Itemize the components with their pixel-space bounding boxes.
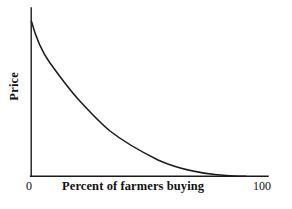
- y-axis-title: Price: [8, 66, 21, 106]
- chart-plot-area: [0, 0, 292, 209]
- x-axis-tick-min: 0: [26, 180, 32, 192]
- x-axis-title: Percent of farmers buying: [62, 180, 204, 193]
- x-axis-tick-max: 100: [253, 180, 271, 192]
- demand-curve-line: [32, 22, 247, 177]
- chart-figure: Price Percent of farmers buying 0 100: [0, 0, 292, 209]
